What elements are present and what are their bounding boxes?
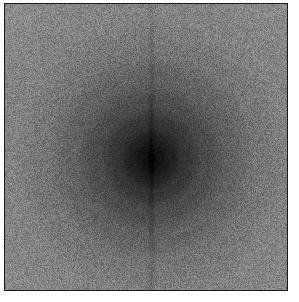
figure-root — [0, 0, 299, 302]
image-frame-border — [4, 3, 288, 291]
noise-field-heatmap — [5, 4, 287, 290]
